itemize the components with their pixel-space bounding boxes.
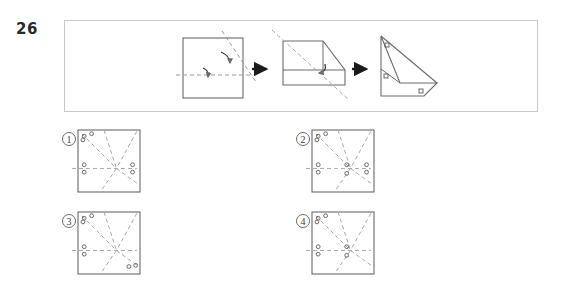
crease-diagonal-c [350,131,370,168]
option-square [312,130,374,192]
crease-diagonal-d [334,168,350,192]
punched-hole [316,216,320,220]
punched-hole [315,138,319,142]
option-square [78,212,140,274]
punched-hole [134,263,138,267]
option-1[interactable] [72,130,140,192]
option-3[interactable] [72,212,140,274]
option-square [312,212,374,274]
crease-diagonal-e [116,168,138,184]
punched-hole [82,163,86,167]
option-4[interactable] [306,212,374,274]
crease-diagonal-a [316,134,351,169]
crease-diagonal-a [316,216,351,251]
stimulus-frame [64,20,538,112]
crease-diagonal-c [116,131,136,168]
crease-diagonal-a [82,134,117,169]
punched-hole [316,163,320,167]
crease-diagonal-c [350,213,370,250]
punched-hole [316,245,320,249]
crease-diagonal-c [116,213,136,250]
punched-hole [127,265,131,269]
punched-hole [82,245,86,249]
crease-diagonal-a [82,216,117,251]
punched-hole [81,138,85,142]
punched-hole [324,214,328,218]
punched-hole [365,163,369,167]
punched-hole [131,170,135,174]
option-label-2[interactable]: 2 [296,132,310,146]
punched-hole [82,216,86,220]
punched-hole [90,214,94,218]
punched-hole [82,134,86,138]
punched-hole [345,254,349,258]
punched-hole [315,220,319,224]
option-label-3[interactable]: 3 [62,214,76,228]
punched-hole [345,163,349,167]
crease-diagonal-d [100,168,116,192]
crease-diagonal-e [350,168,372,184]
punched-hole [316,252,320,256]
punched-hole [345,245,349,249]
question-number: 26 [16,20,38,38]
option-square [78,130,140,192]
punched-hole [345,172,349,176]
punched-hole [90,132,94,136]
punched-hole [324,132,328,136]
option-label-1[interactable]: 1 [62,132,76,146]
punched-hole [316,170,320,174]
options-layer [72,130,374,274]
crease-diagonal-e [350,250,372,266]
question-page: 26 1 2 3 4 [0,0,561,294]
punched-hole [365,170,369,174]
crease-diagonal-b [338,130,350,168]
crease-diagonal-d [100,250,116,274]
crease-diagonal-b [104,212,116,250]
punched-hole [131,163,135,167]
crease-diagonal-e [116,250,138,266]
punched-hole [81,220,85,224]
punched-hole [82,170,86,174]
crease-diagonal-b [338,212,350,250]
option-2[interactable] [306,130,374,192]
crease-diagonal-d [334,250,350,274]
option-label-4[interactable]: 4 [296,214,310,228]
crease-diagonal-b [104,130,116,168]
punched-hole [316,134,320,138]
punched-hole [82,252,86,256]
